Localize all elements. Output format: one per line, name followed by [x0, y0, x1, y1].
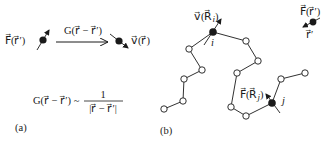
chain-bead	[199, 67, 205, 73]
bead-i	[209, 28, 217, 36]
panel-a: F⃗(r⃗′) G(r⃗ − r⃗′) v⃗(r⃗) G(r⃗ − r⃗′) ~…	[5, 25, 150, 134]
target-velocity-label: v⃗(r⃗)	[131, 35, 150, 47]
chain-bead	[228, 104, 234, 110]
chain-bead	[243, 38, 249, 44]
source-force-label: F⃗(r⃗′)	[5, 33, 26, 47]
chain-beads	[161, 38, 308, 119]
equation-numerator: 1	[100, 89, 105, 100]
bead-j-force-label: F⃗(R⃗j)	[240, 87, 264, 102]
bead-i-index: i	[211, 37, 214, 48]
chain-bead	[181, 76, 187, 82]
chain-bead	[161, 106, 167, 112]
target-point	[115, 37, 122, 44]
chain-bead	[255, 58, 261, 64]
panel-b: v⃗(R⃗i) i F⃗(R⃗j) j F⃗(r⃗′) r⃗′ (b)	[160, 4, 321, 137]
point-position-label: r⃗′	[305, 29, 313, 40]
source-point	[39, 36, 46, 43]
bead-j	[268, 99, 276, 107]
figure-canvas: F⃗(r⃗′) G(r⃗ − r⃗′) v⃗(r⃗) G(r⃗ − r⃗′) ~…	[0, 0, 334, 141]
chain-bead	[234, 70, 240, 76]
panel-b-label: (b)	[160, 125, 173, 137]
chain-bead	[243, 113, 249, 119]
bead-i-velocity-label: v⃗(R⃗i)	[194, 9, 219, 24]
point-force-label: F⃗(r⃗′)	[300, 4, 321, 18]
equation-lhs: G(r⃗ − r⃗′) ~	[33, 95, 80, 107]
chain-bead	[278, 76, 284, 82]
bead-j-index: j	[280, 95, 285, 106]
equation-denominator: |r⃗ − r⃗′|	[89, 103, 117, 114]
chain-bead	[302, 70, 308, 76]
propagator-label: G(r⃗ − r⃗′)	[64, 25, 103, 37]
panel-a-label: (a)	[15, 122, 27, 134]
chain-bead	[186, 46, 192, 52]
chain-bead	[180, 98, 186, 104]
point-force-location	[310, 19, 317, 26]
